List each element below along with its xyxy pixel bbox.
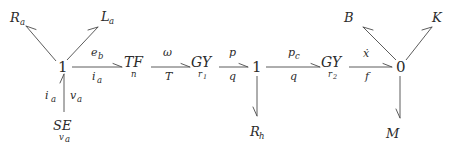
- bond-label-ia-flow: i: [92, 70, 96, 83]
- junction-0-mechanical: 0: [396, 58, 406, 76]
- element-GY2-main: GY: [321, 54, 343, 70]
- component-La-sub: a: [109, 16, 114, 26]
- component-Rh-sub: h: [259, 131, 264, 141]
- element-GY1-main: GY: [191, 54, 213, 70]
- component-label-La: L a: [100, 9, 114, 26]
- element-TF-main: TF: [124, 54, 144, 70]
- component-label-M: M: [385, 126, 400, 141]
- component-SE-main: SE: [53, 118, 72, 133]
- bond-junction1-to-Ra: [26, 26, 56, 61]
- bond-label-xdot-effort: ẋ: [363, 47, 370, 60]
- bond-label-q-flow: q: [229, 70, 236, 83]
- bond-label-ia-sub: a: [51, 94, 56, 104]
- component-Ra-main: R: [9, 10, 20, 25]
- component-label-Ra: R a: [9, 10, 25, 27]
- bond-label-eb-effort: e: [91, 46, 98, 59]
- bond-label-pc-effort: p: [288, 46, 295, 59]
- junction-1-electrical: 1: [58, 58, 68, 76]
- bond-label-va-sub: a: [77, 94, 82, 104]
- diagram-canvas: R a L a i a v a SE v a: [0, 0, 452, 146]
- bond-label-f-flow: f: [364, 70, 371, 83]
- component-K-main: K: [431, 10, 443, 25]
- component-M-main: M: [385, 126, 400, 141]
- element-TF-sub: n: [131, 69, 136, 79]
- component-label-K: K: [431, 10, 443, 25]
- element-TF: TF n: [124, 54, 144, 79]
- bond-junction0-to-K: [406, 27, 432, 60]
- bond-label-p-effort: p: [229, 46, 236, 59]
- element-GY-r2: GY r 2: [321, 54, 343, 81]
- bond-GY1-to-junction1h: p q: [219, 46, 248, 83]
- bond-junction0-to-M: [396, 76, 400, 118]
- bond-label-ia-flow-sub: a: [97, 75, 102, 85]
- bond-label-eb-effort-sub: b: [98, 51, 103, 61]
- bond-graph-diagram: R a L a i a v a SE v a: [0, 0, 452, 146]
- component-label-SE: SE v a: [53, 118, 72, 144]
- bond-GY2-to-junction0: ẋ f: [349, 47, 392, 83]
- bond-junction1-to-TF: e b i a: [72, 46, 122, 85]
- bond-label-pc-sub: c: [295, 51, 300, 61]
- component-SE-sub2: a: [65, 134, 70, 144]
- bond-label-omega-effort: ω: [163, 46, 172, 59]
- bond-junction1h-to-GY2: p c q: [266, 46, 320, 83]
- bond-TF-to-GY1: ω T: [151, 46, 190, 83]
- bond-SE-to-junction1: [60, 74, 64, 112]
- element-GY-r1: GY r 1: [191, 54, 213, 81]
- component-label-B: B: [343, 10, 354, 25]
- bond-label-ia-main: i: [45, 89, 49, 102]
- component-label-Rh: R h: [249, 124, 264, 141]
- bond-label-va-main: v: [70, 89, 77, 102]
- bond-label-ia-va: i a v a: [45, 89, 82, 104]
- component-Ra-sub: a: [20, 17, 25, 27]
- component-B-main: B: [343, 10, 354, 25]
- bond-label-T-flow: T: [165, 70, 174, 83]
- bond-label-q2-flow: q: [290, 70, 297, 83]
- bond-junction1h-to-Rh: [253, 76, 257, 116]
- junction-1-hydraulic: 1: [252, 58, 262, 76]
- element-GY2-sub2: 2: [332, 73, 337, 81]
- component-SE-sub: v: [59, 132, 64, 142]
- element-GY1-sub2: 1: [203, 73, 207, 81]
